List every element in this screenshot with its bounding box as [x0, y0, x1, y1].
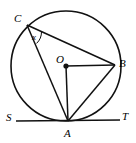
point-label-b: B — [119, 58, 126, 69]
angle-label-x: x — [32, 33, 36, 42]
point-label-o: O — [56, 54, 64, 65]
radius-ob — [66, 65, 115, 66]
chord-ab — [68, 65, 115, 121]
radius-oa — [66, 66, 68, 121]
angle-arc-at-c — [37, 32, 42, 44]
point-label-s: S — [6, 112, 12, 123]
chord-cb — [27, 25, 115, 65]
point-label-c: C — [14, 13, 21, 24]
geometry-figure: C B O A S T x — [0, 0, 136, 143]
point-label-t: T — [122, 111, 128, 122]
center-point-marker — [63, 63, 68, 68]
point-label-a: A — [64, 128, 71, 139]
